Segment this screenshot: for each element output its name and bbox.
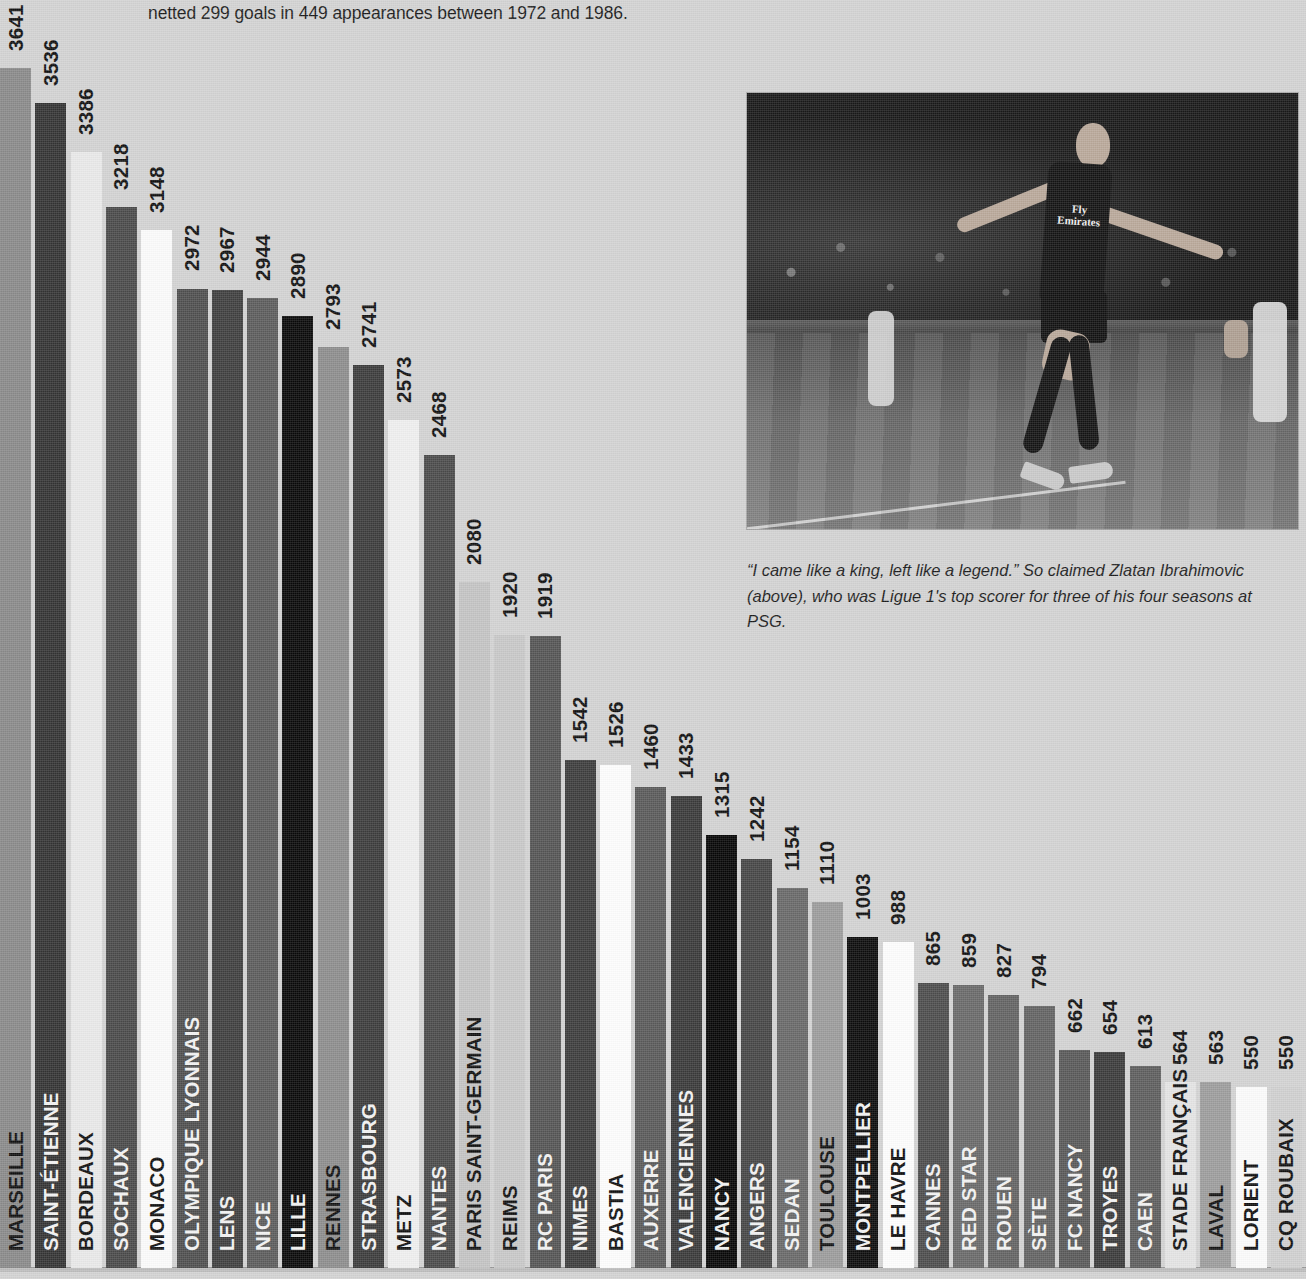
bar-value-label: 2890 bbox=[286, 252, 310, 299]
bar-category-label: LILLE bbox=[286, 1193, 310, 1251]
bar-category-label: ROUEN bbox=[992, 1176, 1016, 1251]
shirt-sponsor-line2: Emirates bbox=[1050, 213, 1107, 229]
bar-category-label: FC NANCY bbox=[1063, 1143, 1087, 1251]
bar-group: 2972OLYMPIQUE LYONNAIS bbox=[177, 0, 208, 1279]
bar-value-label: 1919 bbox=[533, 572, 557, 619]
bar-value-label: 2741 bbox=[357, 301, 381, 348]
bar-category-label: REIMS bbox=[498, 1185, 522, 1251]
bar-value-label: 654 bbox=[1098, 1000, 1122, 1035]
bar-category-label: STRASBOURG bbox=[357, 1103, 381, 1251]
bar-value-label: 1315 bbox=[710, 771, 734, 818]
bar-lille bbox=[282, 316, 313, 1268]
bar-value-label: 564 bbox=[1168, 1030, 1192, 1065]
bar-category-label: METZ bbox=[392, 1194, 416, 1251]
bar-value-label: 662 bbox=[1063, 998, 1087, 1033]
bar-category-label: SÈTE bbox=[1027, 1197, 1051, 1251]
bar-category-label: CAEN bbox=[1133, 1192, 1157, 1251]
bar-group: 2890LILLE bbox=[282, 0, 313, 1279]
bar-category-label: VALENCIENNES bbox=[674, 1090, 698, 1252]
bar-sochaux bbox=[106, 207, 137, 1268]
bar-category-label: NANTES bbox=[427, 1166, 451, 1251]
bar-value-label: 1242 bbox=[745, 795, 769, 842]
bar-group: 1315NANCY bbox=[706, 0, 737, 1279]
bar-group: 3386BORDEAUX bbox=[71, 0, 102, 1279]
bar-category-label: LORIENT bbox=[1239, 1160, 1263, 1251]
bar-group: 3148MONACO bbox=[141, 0, 172, 1279]
player-shirt bbox=[1039, 161, 1113, 305]
photo-caption: “I came like a king, left like a legend.… bbox=[747, 558, 1287, 635]
bar-value-label: 1433 bbox=[674, 732, 698, 779]
bar-value-label: 563 bbox=[1204, 1030, 1228, 1065]
bar-category-label: TROYES bbox=[1098, 1166, 1122, 1252]
bar-category-label: NIMES bbox=[568, 1185, 592, 1251]
bar-group: 3536SAINT-ÉTIENNE bbox=[35, 0, 66, 1279]
bar-group: 3218SOCHAUX bbox=[106, 0, 137, 1279]
bar-category-label: LENS bbox=[215, 1196, 239, 1251]
bar-category-label: SEDAN bbox=[780, 1178, 804, 1251]
bar-marseille bbox=[0, 68, 31, 1268]
bar-value-label: 1920 bbox=[498, 571, 522, 618]
bar-value-label: 2573 bbox=[392, 356, 416, 403]
opponent-player-left bbox=[868, 311, 894, 406]
bar-category-label: AUXERRE bbox=[639, 1149, 663, 1251]
bar-group: 2573METZ bbox=[388, 0, 419, 1279]
bar-category-label: SOCHAUX bbox=[109, 1147, 133, 1251]
bar-group: 2793RENNES bbox=[318, 0, 349, 1279]
bar-category-label: BASTIA bbox=[604, 1173, 628, 1251]
bar-category-label: NANCY bbox=[710, 1177, 734, 1251]
bar-nantes bbox=[424, 455, 455, 1268]
bar-monaco bbox=[141, 230, 172, 1268]
player-right-leg bbox=[1068, 335, 1100, 451]
bar-category-label: MONACO bbox=[145, 1156, 169, 1251]
bar-value-label: 1460 bbox=[639, 723, 663, 770]
bar-group: 2944NICE bbox=[247, 0, 278, 1279]
player-figure: Fly Emirates bbox=[967, 115, 1198, 516]
bar-value-label: 1003 bbox=[851, 874, 875, 921]
bar-category-label: ANGERS bbox=[745, 1162, 769, 1251]
bar-nice bbox=[247, 298, 278, 1268]
bar-metz bbox=[388, 420, 419, 1268]
bar-category-label: PARIS SAINT-GERMAIN bbox=[462, 1016, 486, 1251]
bar-value-label: 550 bbox=[1274, 1035, 1298, 1070]
bar-value-label: 1542 bbox=[568, 696, 592, 743]
bar-value-label: 3536 bbox=[39, 39, 63, 86]
bar-group: 2967LENS bbox=[212, 0, 243, 1279]
bar-group: 1542NIMES bbox=[565, 0, 596, 1279]
opponent-arm-right bbox=[1224, 320, 1248, 358]
bar-value-label: 2972 bbox=[180, 225, 204, 272]
bar-category-label: RENNES bbox=[321, 1164, 345, 1251]
bar-category-label: CQ ROUBAIX bbox=[1274, 1118, 1298, 1251]
bar-category-label: CANNES bbox=[921, 1163, 945, 1251]
bar-category-label: RC PARIS bbox=[533, 1153, 557, 1251]
bar-value-label: 613 bbox=[1133, 1014, 1157, 1049]
bar-group: 2468NANTES bbox=[424, 0, 455, 1279]
bar-value-label: 3641 bbox=[4, 4, 28, 51]
bar-value-label: 3386 bbox=[74, 88, 98, 135]
bar-value-label: 988 bbox=[886, 890, 910, 925]
bar-value-label: 1110 bbox=[815, 841, 839, 886]
bar-value-label: 1154 bbox=[780, 825, 804, 871]
bar-value-label: 794 bbox=[1027, 954, 1051, 989]
player-right-boot bbox=[1068, 461, 1114, 484]
shirt-sponsor-text: Fly Emirates bbox=[1050, 201, 1108, 233]
opponent-player-right bbox=[1253, 302, 1287, 422]
bar-group: 1526BASTIA bbox=[600, 0, 631, 1279]
bar-group: 1919RC PARIS bbox=[530, 0, 561, 1279]
bar-value-label: 2967 bbox=[215, 226, 239, 273]
bar-value-label: 827 bbox=[992, 943, 1016, 978]
bar-category-label: STADE FRANÇAIS bbox=[1168, 1069, 1192, 1251]
bar-category-label: MONTPELLIER bbox=[851, 1102, 875, 1251]
player-left-boot bbox=[1019, 461, 1066, 492]
bar-reims bbox=[494, 635, 525, 1268]
bar-group: 1920REIMS bbox=[494, 0, 525, 1279]
bar-category-label: RED STAR bbox=[957, 1146, 981, 1251]
bar-category-label: NICE bbox=[251, 1201, 275, 1251]
bar-category-label: LAVAL bbox=[1204, 1185, 1228, 1251]
bar-value-label: 859 bbox=[957, 933, 981, 968]
bar-group: 3641MARSEILLE bbox=[0, 0, 31, 1279]
bar-lens bbox=[212, 290, 243, 1268]
bar-value-label: 3148 bbox=[145, 167, 169, 214]
bar-group: 2080PARIS SAINT-GERMAIN bbox=[459, 0, 490, 1279]
bar-value-label: 2080 bbox=[462, 519, 486, 566]
bar-category-label: SAINT-ÉTIENNE bbox=[39, 1092, 63, 1251]
